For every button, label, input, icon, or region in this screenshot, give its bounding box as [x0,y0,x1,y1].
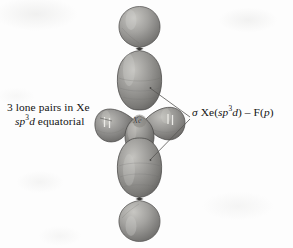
axial-bottom-outer-lobe [119,201,160,242]
axial-bottom-node [136,197,144,200]
axial-top-inner-lobe [117,51,161,111]
axial-top-outer-lobe [119,7,160,48]
orbital-diagram-figure: Xe 3 lone pairs in Xe sp3d equatorial σ … [0,0,293,248]
right-annotation-sp: sp [218,106,228,118]
left-annotation-line2: sp3d equatorial [7,115,90,129]
left-annotation-line1: 3 lone pairs in Xe [7,101,90,113]
left-annotation-equatorial: equatorial [35,115,85,127]
left-annotation-sp: sp [15,115,25,127]
right-annotation-close: ) [270,106,274,118]
center-atom-label: Xe [133,116,142,125]
axial-top-node [136,47,144,50]
right-annotation-xe: Xe( [198,106,218,118]
left-annotation-label: 3 lone pairs in Xe sp3d equatorial [7,101,90,128]
right-annotation-label: σ Xe(sp3d) – F(p) [192,106,274,120]
right-annotation-dash: ) – F( [238,106,264,118]
axial-bottom-inner-lobe [117,138,161,198]
